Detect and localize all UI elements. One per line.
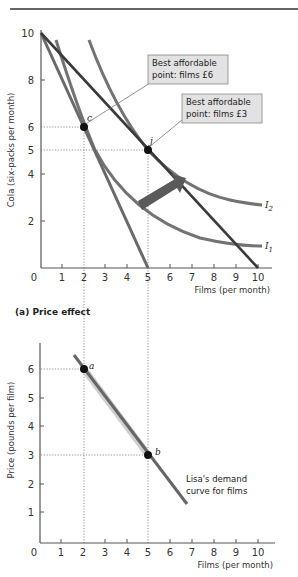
bottom-panel: 6 5 4 3 2 1 0 1 2 3 4 5 6 7 8 9 10 Films… bbox=[6, 290, 275, 570]
y-tick-6: 6 bbox=[28, 122, 34, 133]
svg-text:1: 1 bbox=[58, 547, 64, 558]
y-tick-8: 8 bbox=[28, 75, 34, 86]
svg-text:Best affordable: Best affordable bbox=[186, 97, 251, 107]
y-tick-5: 5 bbox=[28, 145, 34, 156]
demand-curve bbox=[74, 355, 187, 504]
svg-text:4: 4 bbox=[124, 547, 130, 558]
callout-leader-j bbox=[148, 120, 182, 148]
shift-arrow-icon bbox=[138, 174, 186, 210]
top-panel: 10 8 6 5 4 2 0 1 2 3 4 5 6 7 8 9 10 Film… bbox=[6, 28, 274, 295]
demand-curve-label: Lisa's demand curve for films bbox=[186, 474, 248, 496]
svg-text:7: 7 bbox=[189, 547, 195, 558]
point-j bbox=[144, 146, 152, 154]
point-a bbox=[80, 365, 88, 373]
svg-text:5: 5 bbox=[28, 393, 34, 404]
svg-text:6: 6 bbox=[167, 547, 173, 558]
point-b-label: b bbox=[155, 447, 161, 457]
point-a-label: a bbox=[89, 361, 94, 371]
svg-text:0: 0 bbox=[31, 547, 37, 558]
x-axis-title: Films (per month) bbox=[195, 285, 270, 295]
svg-text:curve for films: curve for films bbox=[186, 486, 248, 496]
x-tick-8: 8 bbox=[211, 272, 217, 283]
panel-title: (a) Price effect bbox=[15, 307, 91, 317]
x-tick-6: 6 bbox=[167, 272, 173, 283]
x-tick-1: 1 bbox=[59, 272, 65, 283]
svg-text:6: 6 bbox=[28, 364, 34, 375]
x-tick-0: 0 bbox=[31, 272, 37, 283]
callout-films-3: Best affordable point: films £3 bbox=[182, 94, 262, 123]
svg-text:Lisa's demand: Lisa's demand bbox=[186, 474, 247, 484]
x-tick-4: 4 bbox=[124, 272, 130, 283]
svg-text:Best affordable: Best affordable bbox=[152, 58, 217, 68]
y-tick-2: 2 bbox=[28, 216, 34, 227]
svg-text:2: 2 bbox=[28, 479, 34, 490]
svg-text:8: 8 bbox=[211, 547, 217, 558]
svg-text:5: 5 bbox=[145, 547, 151, 558]
x-tick-5: 5 bbox=[145, 272, 151, 283]
x-tick-9: 9 bbox=[233, 272, 239, 283]
top-y-tick-labels: 10 8 6 5 4 2 bbox=[21, 28, 34, 227]
svg-text:3: 3 bbox=[28, 450, 34, 461]
budget-line-films-6 bbox=[41, 33, 148, 268]
bottom-y-tick-labels: 6 5 4 3 2 1 bbox=[28, 364, 34, 518]
y-tick-4: 4 bbox=[28, 169, 34, 180]
price-effect-figure: 10 8 6 5 4 2 0 1 2 3 4 5 6 7 8 9 10 Film… bbox=[0, 0, 298, 577]
svg-text:1: 1 bbox=[28, 507, 34, 518]
point-c bbox=[80, 123, 88, 131]
svg-text:3: 3 bbox=[102, 547, 108, 558]
x-tick-7: 7 bbox=[189, 272, 195, 283]
y-axis-title-bottom: Price (pounds per film) bbox=[6, 382, 16, 479]
bottom-axes bbox=[40, 343, 275, 543]
svg-text:10: 10 bbox=[252, 547, 265, 558]
point-j-label: j bbox=[148, 136, 153, 146]
top-x-tick-labels: 0 1 2 3 4 5 6 7 8 9 10 bbox=[31, 272, 265, 283]
svg-text:4: 4 bbox=[28, 421, 34, 432]
svg-text:9: 9 bbox=[233, 547, 239, 558]
y-axis-title: Cola (six-packs per month) bbox=[6, 93, 16, 208]
x-axis-title-bottom: Films (per month) bbox=[198, 560, 273, 570]
svg-text:point: films £6: point: films £6 bbox=[152, 70, 213, 80]
point-b bbox=[144, 451, 152, 459]
x-tick-3: 3 bbox=[102, 272, 108, 283]
guide-lines-bottom bbox=[41, 290, 148, 543]
x-tick-10: 10 bbox=[252, 272, 265, 283]
bottom-x-tick-labels: 0 1 2 3 4 5 6 7 8 9 10 bbox=[31, 547, 265, 558]
i2-label: I2 bbox=[264, 200, 274, 213]
x-tick-2: 2 bbox=[81, 272, 87, 283]
point-c-label: c bbox=[87, 113, 92, 123]
callout-films-6: Best affordable point: films £6 bbox=[148, 55, 228, 84]
svg-text:point: films £3: point: films £3 bbox=[186, 109, 247, 119]
i1-label: I1 bbox=[264, 241, 273, 254]
svg-text:2: 2 bbox=[80, 547, 86, 558]
y-tick-10: 10 bbox=[21, 28, 34, 39]
